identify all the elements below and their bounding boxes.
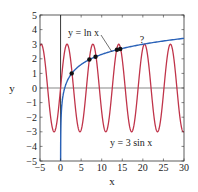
x-tick-label: 20 bbox=[138, 162, 148, 173]
x-tick-label: 30 bbox=[179, 162, 189, 173]
y-tick-label: −5 bbox=[26, 156, 37, 167]
y-tick-label: 1 bbox=[32, 68, 37, 79]
chart: −5051015202530−5−4−3−2−1012345 x y y = l… bbox=[0, 0, 198, 192]
sin-curve-label: y = 3 sin x bbox=[110, 137, 152, 148]
y-tick-label: 5 bbox=[32, 10, 37, 21]
y-tick-label: 4 bbox=[32, 24, 37, 35]
y-tick-label: −4 bbox=[26, 141, 37, 152]
x-tick-label: 15 bbox=[117, 162, 127, 173]
y-tick-label: 2 bbox=[32, 53, 37, 64]
ln-curve-label: y = ln x bbox=[68, 27, 99, 38]
x-axis-label: x bbox=[109, 175, 115, 187]
y-axis-label: y bbox=[9, 82, 15, 94]
x-tick-label: 5 bbox=[79, 162, 84, 173]
tick-labels: −5051015202530−5−4−3−2−1012345 bbox=[26, 10, 189, 174]
intersection-point bbox=[93, 55, 97, 59]
x-tick-label: 0 bbox=[58, 162, 63, 173]
intersection-point bbox=[118, 47, 122, 51]
y-tick-label: 3 bbox=[32, 39, 37, 50]
ln-label-arrow bbox=[101, 35, 112, 52]
question-mark-annotation: ? bbox=[140, 34, 145, 45]
y-tick-label: −1 bbox=[26, 97, 37, 108]
intersection-point bbox=[69, 71, 73, 75]
intersection-point bbox=[87, 57, 91, 61]
y-tick-label: −3 bbox=[26, 126, 37, 137]
x-tick-label: 25 bbox=[158, 162, 168, 173]
x-tick-label: 10 bbox=[97, 162, 107, 173]
y-tick-label: 0 bbox=[32, 83, 37, 94]
y-tick-label: −2 bbox=[26, 112, 37, 123]
